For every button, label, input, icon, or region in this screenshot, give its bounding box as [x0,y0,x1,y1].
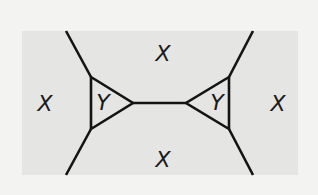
label-region-top: X [154,41,171,66]
diagram-canvas: X X X X Y Y [0,0,318,195]
label-region-left: X [36,91,53,116]
label-region-bottom: X [154,147,171,172]
planar-graph-diagram: X X X X Y Y [0,0,318,195]
label-left-triangle: Y [96,90,111,115]
label-region-right: X [269,91,286,116]
label-right-triangle: Y [210,90,225,115]
